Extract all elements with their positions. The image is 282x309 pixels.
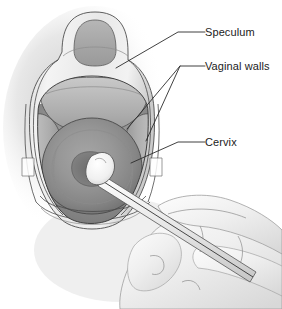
speculum-blade-left-gap — [22, 158, 34, 176]
medical-illustration-figure: Speculum Vaginal walls Cervix — [0, 0, 282, 309]
label-cervix: Cervix — [205, 136, 237, 148]
speculum-blade-right-gap — [150, 158, 162, 176]
label-vaginal-walls: Vaginal walls — [205, 60, 270, 72]
illustration-canvas: Speculum Vaginal walls Cervix — [0, 0, 282, 309]
label-speculum: Speculum — [205, 26, 255, 38]
speculum-top-opening — [74, 20, 116, 66]
